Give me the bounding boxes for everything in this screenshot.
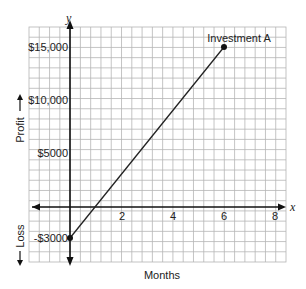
grid-border [29, 27, 286, 262]
y-tick-label: $15,000 [28, 41, 68, 53]
x-axis-symbol: x [289, 200, 296, 214]
y-tick-label: $5000 [37, 147, 68, 159]
x-axis-left-arrow-icon [32, 204, 40, 211]
series-label: Investment A [207, 32, 271, 44]
profit-arrowhead-icon [17, 94, 23, 100]
y-axis-symbol: y [65, 11, 72, 25]
y-axis-title-loss: Loss [14, 224, 26, 266]
series-line-investment-a [70, 47, 224, 238]
x-axis-title: Months [144, 269, 181, 281]
y-axis-title-profit: Profit [14, 94, 26, 143]
loss-arrowhead-icon [17, 260, 23, 266]
x-tick-label: 8 [272, 210, 278, 222]
x-tick-label: 6 [221, 210, 227, 222]
y-axis-down-arrow-icon [67, 257, 74, 266]
data-point-start [67, 235, 73, 241]
profit-label: Profit [14, 117, 26, 143]
y-tick-label: $10,000 [28, 94, 68, 106]
chart-canvas: y x $15,000 $10,000 $5000 -$3000 2 4 6 8… [0, 0, 306, 289]
x-axis-right-arrow-icon [278, 204, 286, 211]
y-tick-label: -$3000 [34, 232, 68, 244]
grid-lines [29, 27, 286, 262]
x-tick-label: 2 [119, 210, 125, 222]
x-tick-label: 4 [170, 210, 176, 222]
data-point-end [221, 44, 227, 50]
loss-label: Loss [14, 224, 26, 248]
